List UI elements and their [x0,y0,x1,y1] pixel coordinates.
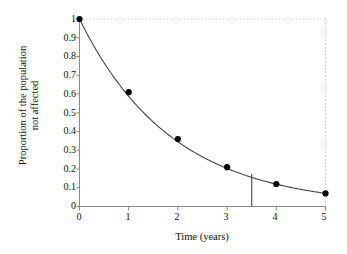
y-tick-label-0-4: 0.4 [50,125,76,136]
y-tick-label-0-6: 0.6 [50,88,76,99]
data-point [76,16,82,22]
x-tick-label-3: 3 [216,211,236,222]
data-point [224,164,230,170]
x-axis-title: Time (years) [79,231,325,242]
y-tick-label-0-2: 0.2 [50,163,76,174]
x-tick-label-0: 0 [69,211,89,222]
x-tick-label-1: 1 [118,211,138,222]
x-tick-label-5: 5 [314,211,334,222]
data-point [175,136,181,142]
y-tick-label-0-8: 0.8 [50,50,76,61]
y-tick-label-0-7: 0.7 [50,69,76,80]
x-tick-label-2: 2 [167,211,187,222]
data-point [322,190,328,196]
y-tick-label-0: 0 [50,200,76,211]
y-tick-label-1-0: 1 [50,13,76,24]
y-tick-label-0-3: 0.3 [50,144,76,155]
y-tick-label-0-9: 0.9 [50,32,76,43]
data-point-markers [76,16,328,197]
x-axis-ticks [80,207,326,211]
chart-figure: Proportion of the population not affecte… [0,0,347,254]
y-tick-label-0-1: 0.1 [50,181,76,192]
y-tick-label-0-5: 0.5 [50,107,76,118]
data-point [126,89,132,95]
data-point [273,181,279,187]
decay-curve [80,19,326,193]
x-tick-label-4: 4 [265,211,285,222]
